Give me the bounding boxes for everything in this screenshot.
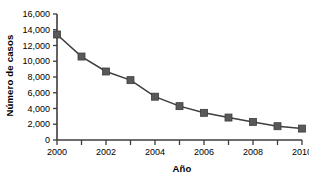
x-axis-title-container: Año	[55, 158, 309, 176]
y-tick-label: 6,000	[27, 88, 50, 98]
x-tick-label: 2010	[292, 147, 309, 157]
y-tick-label: 8,000	[27, 72, 50, 82]
data-point-marker	[225, 114, 232, 121]
data-point-marker	[103, 68, 110, 75]
y-tick-label: 14,000	[22, 25, 50, 35]
y-tick-label: 16,000	[22, 9, 50, 19]
x-axis-tick-labels: 200020022004200620082010	[47, 147, 309, 157]
data-point-marker	[299, 125, 306, 132]
x-tick-label: 2002	[96, 147, 116, 157]
chart-plot-area: 02,0004,0006,0008,00010,00012,00014,0001…	[0, 0, 309, 180]
x-tick-label: 2000	[47, 147, 67, 157]
data-point-marker	[152, 93, 159, 100]
data-point-marker	[176, 103, 183, 110]
data-point-marker	[274, 123, 281, 130]
data-point-marker	[250, 118, 257, 125]
y-tick-label: 12,000	[22, 41, 50, 51]
y-tick-label: 10,000	[22, 56, 50, 66]
y-tick-label: 2,000	[27, 119, 50, 129]
y-tick-label: 0	[45, 135, 50, 145]
data-point-marker	[78, 53, 85, 60]
x-tick-label: 2006	[194, 147, 214, 157]
data-point-marker	[127, 77, 134, 84]
y-axis-tick-labels: 02,0004,0006,0008,00010,00012,00014,0001…	[22, 9, 50, 145]
data-point-marker	[54, 31, 61, 38]
line-chart: 02,0004,0006,0008,00010,00012,00014,0001…	[0, 0, 309, 180]
x-tick-label: 2004	[145, 147, 165, 157]
x-axis-title: Año	[172, 163, 191, 174]
x-tick-label: 2008	[243, 147, 263, 157]
y-tick-label: 4,000	[27, 104, 50, 114]
series-line-numero-de-casos	[57, 34, 302, 128]
series-markers	[54, 31, 306, 132]
data-point-marker	[201, 109, 208, 116]
